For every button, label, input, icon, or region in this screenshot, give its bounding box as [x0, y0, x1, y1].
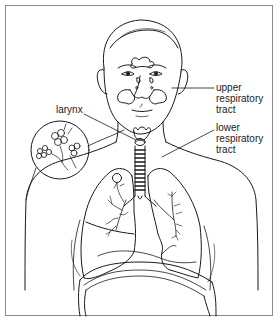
label-upper-respiratory-tract: upper respiratory tract — [216, 82, 263, 115]
label-lower-respiratory-tract: lower respiratory tract — [216, 122, 263, 155]
lower-line-3: tract — [216, 144, 263, 155]
face-features — [118, 65, 166, 117]
lower-line-1: lower — [216, 122, 263, 133]
lower-line-2: respiratory — [216, 133, 263, 144]
upper-line-2: respiratory — [216, 93, 263, 104]
trachea — [124, 146, 156, 206]
larynx-text: larynx — [56, 104, 83, 115]
label-larynx: larynx — [56, 104, 83, 115]
diaphragm — [71, 220, 216, 316]
alveoli-magnifier — [26, 121, 124, 200]
upper-line-1: upper — [216, 82, 263, 93]
respiratory-illustration — [0, 0, 280, 322]
upper-line-3: tract — [216, 104, 263, 115]
